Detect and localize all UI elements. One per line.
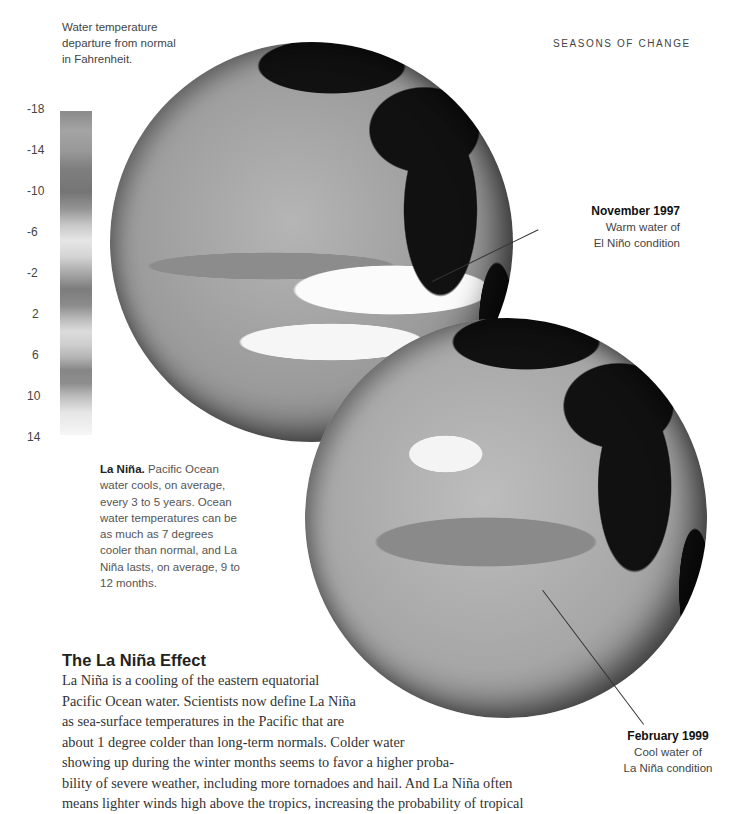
legend-tick: -18 xyxy=(27,102,44,116)
legend-tick: -2 xyxy=(27,266,38,280)
globe-february-1999 xyxy=(305,318,707,718)
article-line: showing up during the winter months seem… xyxy=(62,752,582,773)
article-heading: The La Niña Effect xyxy=(62,651,206,670)
callout-november-1997: November 1997 Warm water of El Niño cond… xyxy=(540,203,680,251)
callout-date: February 1999 xyxy=(608,728,728,744)
article-line: bility of severe weather, including more… xyxy=(62,773,582,794)
callout-line: La Niña condition xyxy=(608,760,728,776)
article-line: La Niña is a cooling of the eastern equa… xyxy=(62,670,582,691)
sidebar-note-text: Pacific Ocean water cools, on average, e… xyxy=(100,463,240,589)
section-label: SEASONS OF CHANGE xyxy=(553,38,691,49)
legend-tick: -10 xyxy=(27,184,44,198)
legend-tick: 6 xyxy=(32,348,39,362)
article-line: about 1 degree colder than long-term nor… xyxy=(62,732,582,753)
article-line: Pacific Ocean water. Scientists now defi… xyxy=(62,691,582,712)
callout-line: Cool water of xyxy=(608,744,728,760)
article-line: means lighter winds high above the tropi… xyxy=(62,793,582,814)
sidebar-note: La Niña. Pacific Ocean water cools, on a… xyxy=(100,461,240,591)
legend-title: Water temperature departure from normal … xyxy=(62,19,182,67)
sidebar-note-lead: La Niña. xyxy=(100,463,145,475)
temperature-color-scale xyxy=(60,111,92,435)
callout-line: Warm water of xyxy=(540,219,680,235)
legend-tick: -14 xyxy=(27,143,44,157)
legend-tick: -6 xyxy=(27,225,38,239)
article-body: La Niña is a cooling of the eastern equa… xyxy=(62,670,582,814)
legend-tick: 14 xyxy=(27,430,40,444)
legend-tick: 10 xyxy=(27,389,40,403)
callout-february-1999: February 1999 Cool water of La Niña cond… xyxy=(608,728,728,776)
callout-line: El Niño condition xyxy=(540,235,680,251)
callout-date: November 1997 xyxy=(540,203,680,219)
article-line: as sea-surface temperatures in the Pacif… xyxy=(62,711,582,732)
legend-tick: 2 xyxy=(32,307,39,321)
